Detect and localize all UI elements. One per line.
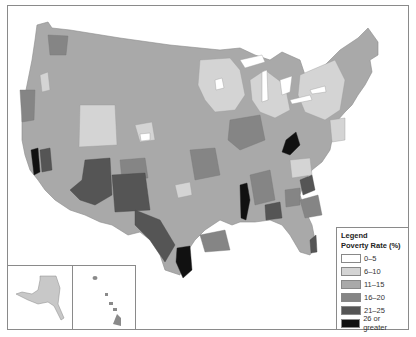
hawaii-inset (72, 265, 136, 330)
legend-item: 0–5 (341, 252, 404, 264)
legend-title: Legend (341, 231, 404, 241)
legend-label: 11–15 (364, 280, 384, 289)
legend-swatch (341, 267, 361, 276)
alaska-shape (8, 266, 72, 329)
legend-item: 16–20 (341, 291, 404, 303)
legend-swatch (341, 254, 361, 263)
alaska-inset (7, 265, 73, 330)
map-legend: Legend Poverty Rate (%) 0–56–1011–1516–2… (336, 227, 409, 330)
legend-swatch (341, 319, 360, 328)
legend-label: 26 or greater (363, 314, 404, 332)
legend-label: 0–5 (364, 254, 377, 263)
legend-item: 26 or greater (341, 317, 404, 329)
legend-item: 11–15 (341, 278, 404, 290)
legend-item: 6–10 (341, 265, 404, 277)
legend-swatch (341, 280, 361, 289)
legend-label: 6–10 (364, 267, 381, 276)
legend-subtitle: Poverty Rate (%) (341, 241, 404, 251)
legend-label: 16–20 (364, 293, 385, 302)
legend-swatch (341, 306, 361, 315)
legend-swatch (341, 293, 361, 302)
hawaii-shape (73, 266, 135, 329)
